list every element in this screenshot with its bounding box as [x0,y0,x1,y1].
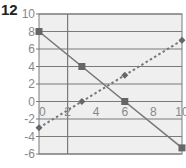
y-tick-label: -4 [24,130,35,144]
y-tick-label: 2 [28,77,35,91]
square-marker [179,144,186,151]
y-tick-label: 8 [28,25,35,39]
line-chart: 1086420-2-4-60246810 [0,0,186,168]
y-tick-label: -2 [24,112,35,126]
y-tick-label: 0 [28,95,35,109]
y-tick-label: -6 [24,147,35,161]
square-marker [78,63,85,70]
square-marker [36,28,43,35]
x-tick-label: 4 [93,105,100,119]
y-tick-label: 10 [22,7,36,21]
x-tick-label: 10 [175,105,186,119]
x-tick-label: 0 [39,105,46,119]
x-tick-label: 8 [150,105,157,119]
y-tick-label: 6 [28,42,35,56]
x-tick-label: 6 [121,105,128,119]
square-marker [121,98,128,105]
y-tick-label: 4 [28,60,35,74]
